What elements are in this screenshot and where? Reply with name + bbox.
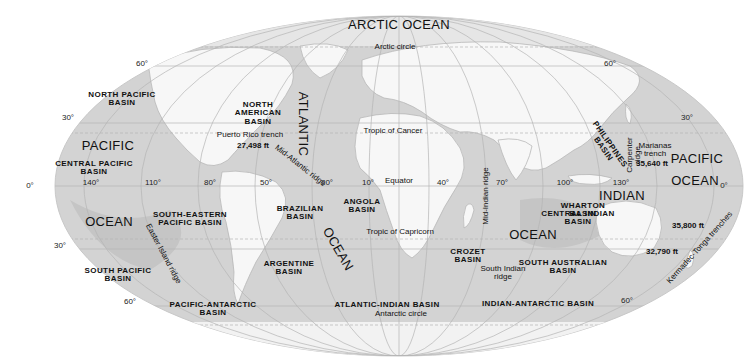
degree-label-5: 80° [204,179,216,187]
depth-label-kermadec-depth-2: 32,790 ft [646,248,678,256]
depth-label-marianas-depth: 35,640 ft [636,160,668,168]
feature-label-marianas-trench: Marianastrench [639,142,672,159]
degree-label-4: 110° [145,179,161,187]
feature-label-puerto-rico-trench: Puerto Rico trench [217,131,283,139]
degree-label-18: 60° [621,297,633,305]
degree-label-9: 40° [437,179,449,187]
basin-label-north-american: NORTHAMERICANBASIN [235,101,281,126]
ridge-label-mid-indian: Mid-Indian ridge [482,167,490,224]
basin-label-central-pacific: CENTRAL PACIFICBASIN [55,160,133,177]
basin-label-brazilian: BRAZILIANBASIN [277,205,324,222]
degree-label-0: 60° [136,60,148,68]
ocean-label-indian-n: INDIAN [599,189,645,203]
ocean-label-pacific-nw: PACIFIC [82,139,134,153]
feature-label-tropic-capricorn: Tropic of Capricorn [366,228,434,236]
degree-label-16: 60° [604,60,616,68]
basin-label-argentine: ARGENTINEBASIN [264,260,315,277]
degree-label-7: 20° [321,179,333,187]
basin-label-pacific-antarctic: PACIFIC-ANTARCTICBASIN [170,301,257,318]
basin-label-south-eastern-pacific: SOUTH-EASTERNPACIFIC BASIN [153,211,227,228]
degree-label-13: 0° [720,182,728,190]
basin-label-north-pacific: NORTH PACIFICBASIN [88,91,155,108]
degree-label-1: 30° [62,114,74,122]
ocean-label-pacific-se: OCEAN [671,174,719,188]
depth-label-kermadec-depth-1: 35,800 ft [672,222,704,230]
degree-label-2: 0° [26,182,34,190]
antarctica [0,322,749,364]
ocean-label-pacific-sw: OCEAN [85,215,133,229]
degree-label-17: 30° [681,114,693,122]
degree-label-12: 130° [613,179,630,187]
feature-label-tropic-cancer: Tropic of Cancer [364,127,423,135]
degree-label-3: 140° [83,179,100,187]
basin-label-angola: ANGOLABASIN [343,198,380,215]
basin-label-indian-antarctic: INDIAN-ANTARCTIC BASIN [482,300,594,308]
feature-label-antarctic-circle: Antarctic circle [375,310,427,318]
basin-label-south-pacific: SOUTH PACIFICBASIN [85,267,152,284]
degree-label-15: 60° [124,298,136,306]
degree-label-14: 30° [54,242,66,250]
ocean-label-indian-s: OCEAN [509,228,557,242]
degree-label-10: 70° [496,179,508,187]
ocean-label-arctic: ARCTIC OCEAN [348,18,450,32]
basin-label-wharton: WHARTONBASIN [561,202,605,219]
feature-label-arctic-circle: Arctic circle [375,43,416,51]
feature-label-south-indian-ridge: South Indianridge [481,265,526,282]
depth-label-puerto-rico-depth: 27,498 ft [237,142,269,150]
degree-label-6: 50° [260,179,272,187]
degree-label-11: 100° [557,179,574,187]
basin-label-crozet: CROZETBASIN [450,248,485,265]
feature-label-equator: Equator [385,177,413,185]
ocean-label-pacific-ne: PACIFIC [671,152,723,166]
basin-label-south-australian: SOUTH AUSTRALIANBASIN [519,259,607,276]
degree-label-8: 10° [362,179,374,187]
ocean-label-atlantic-n: ATLANTIC [296,92,310,156]
